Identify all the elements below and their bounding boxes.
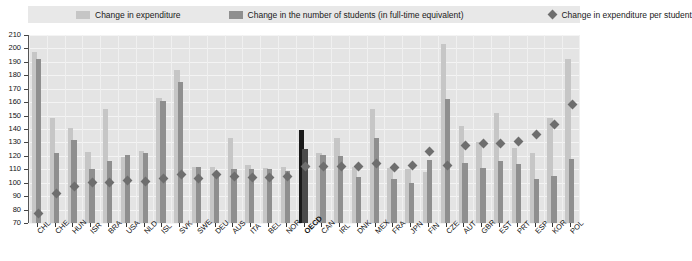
marker-expenditure-per-student	[532, 129, 542, 139]
bar-group	[136, 35, 154, 223]
bar-group	[278, 35, 296, 223]
plot-area	[28, 35, 580, 223]
y-tick-label: 120	[8, 152, 21, 160]
x-tick-label-isl: ISL	[160, 222, 174, 236]
bar-group	[47, 35, 65, 223]
y-tick-label: 90	[13, 192, 21, 200]
bar-group	[384, 35, 402, 223]
x-tick-label-jpn: JPN	[409, 220, 425, 236]
bar-students	[143, 153, 148, 223]
bar-group	[456, 35, 474, 223]
bar-students	[36, 59, 41, 223]
bar-group	[367, 35, 385, 223]
legend-swatch-expenditure-icon	[76, 11, 90, 19]
bar-students	[125, 155, 130, 223]
x-axis: CHLCHEHUNISRBRAUSANLDISLSVKSWEDEUAUSITAB…	[28, 223, 580, 261]
bar-group	[349, 35, 367, 223]
bar-students	[107, 161, 112, 223]
legend-item-expenditure: Change in expenditure	[76, 10, 181, 20]
legend-label-expenditure-per-student: Change in expenditure per student	[561, 10, 691, 20]
bar-group	[189, 35, 207, 223]
legend-diamond-marker-icon	[548, 10, 558, 20]
bar-students	[214, 176, 219, 223]
y-tick-label: 160	[8, 98, 21, 106]
bar-group	[544, 35, 562, 223]
legend-item-expenditure-per-student: Change in expenditure per student	[549, 10, 691, 20]
y-tick-label: 70	[13, 219, 21, 227]
bar-group	[82, 35, 100, 223]
bar-students	[516, 164, 521, 223]
bar-students	[409, 183, 414, 223]
y-tick-label: 200	[8, 44, 21, 52]
x-tick-label-bel: BEL	[267, 220, 283, 236]
bar-group	[242, 35, 260, 223]
y-tick-label: 150	[8, 112, 21, 120]
marker-expenditure-per-student	[514, 136, 524, 146]
bar-students	[178, 82, 183, 223]
x-tick-label-irl: IRL	[338, 222, 352, 236]
bar-students	[356, 177, 361, 223]
bar-students	[569, 159, 574, 223]
bar-group	[296, 35, 314, 223]
bar-group	[207, 35, 225, 223]
bar-students	[160, 101, 165, 223]
bar-students	[551, 176, 556, 223]
chart-legend: Change in expenditure Change in the numb…	[28, 6, 580, 23]
y-tick-label: 80	[13, 206, 21, 214]
bar-group	[29, 35, 47, 223]
legend-label-expenditure: Change in expenditure	[95, 10, 181, 20]
bar-students	[374, 138, 379, 223]
vertical-gridline	[579, 35, 580, 223]
y-axis: 7080901001101201301401501601701801902002…	[0, 35, 28, 223]
bar-group	[473, 35, 491, 223]
legend-swatch-students-icon	[229, 11, 243, 19]
y-tick-label: 110	[9, 165, 21, 173]
bar-students	[427, 160, 432, 223]
bar-group	[420, 35, 438, 223]
bar-group	[562, 35, 580, 223]
y-tick-label: 210	[8, 31, 21, 39]
x-tick-label-est: EST	[498, 220, 514, 236]
bar-group	[171, 35, 189, 223]
marker-expenditure-per-student	[425, 147, 435, 157]
bar-group	[438, 35, 456, 223]
bar-group	[260, 35, 278, 223]
x-tick-label-ita: ITA	[249, 222, 263, 236]
bar-group	[225, 35, 243, 223]
bar-group	[527, 35, 545, 223]
y-tick-label: 180	[8, 71, 21, 79]
bar-group	[65, 35, 83, 223]
bar-group	[509, 35, 527, 223]
bar-group	[402, 35, 420, 223]
bar-group	[153, 35, 171, 223]
legend-label-students: Change in the number of students (in ful…	[248, 10, 464, 20]
y-tick-label: 100	[8, 179, 21, 187]
legend-item-students: Change in the number of students (in ful…	[229, 10, 464, 20]
y-tick-label: 140	[8, 125, 21, 133]
x-tick-label-isr: ISR	[89, 221, 104, 236]
bar-group	[100, 35, 118, 223]
bar-students	[391, 179, 396, 223]
bar-group	[491, 35, 509, 223]
y-tick-label: 170	[8, 85, 21, 93]
bar-students	[534, 179, 539, 223]
bar-students	[462, 163, 467, 223]
x-tick-label-fin: FIN	[427, 221, 441, 235]
y-tick-label: 190	[8, 58, 21, 66]
bar-students	[498, 161, 503, 223]
bar-group	[118, 35, 136, 223]
y-tick-label: 130	[8, 138, 21, 146]
bar-group	[331, 35, 349, 223]
bar-group	[313, 35, 331, 223]
bar-students	[480, 168, 485, 223]
